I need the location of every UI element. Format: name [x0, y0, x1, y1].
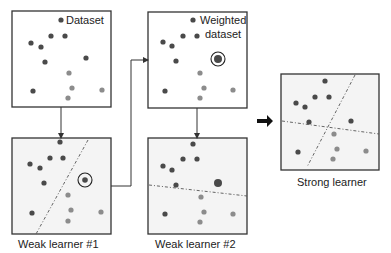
weighted-data-point: [214, 55, 222, 63]
dark-data-point: [322, 78, 327, 83]
dark-data-point: [190, 17, 195, 22]
weighted-data-point: [214, 179, 222, 187]
dark-data-point: [194, 33, 199, 38]
weighted-label-line1: Weighted: [200, 14, 246, 26]
dark-data-point: [160, 39, 165, 44]
weighted-box: [148, 12, 247, 108]
strong-panel: [281, 74, 379, 170]
light-data-point: [230, 211, 235, 216]
dark-data-point: [295, 149, 300, 154]
dark-data-point: [47, 155, 52, 160]
dark-data-point: [162, 211, 167, 216]
dark-data-point: [42, 59, 47, 64]
dark-data-point: [173, 58, 178, 63]
dark-data-point: [41, 180, 46, 185]
dark-data-point: [48, 33, 53, 38]
light-data-point: [65, 218, 70, 223]
dark-data-point: [29, 210, 34, 215]
light-data-point: [197, 95, 202, 100]
dataset-label: Dataset: [66, 14, 104, 26]
light-data-point: [66, 70, 71, 75]
light-data-point: [198, 194, 203, 199]
dark-data-point: [194, 156, 199, 161]
dark-data-point: [180, 156, 185, 161]
light-data-point: [331, 131, 336, 136]
light-data-point: [65, 95, 70, 100]
dark-data-point: [58, 17, 63, 22]
dark-data-point: [348, 118, 353, 123]
dark-data-point: [306, 119, 311, 124]
weak1-panel: [12, 138, 111, 234]
dark-data-point: [293, 100, 298, 105]
light-data-point: [197, 70, 202, 75]
dark-data-point: [60, 155, 65, 160]
dark-data-point: [57, 139, 62, 144]
dark-data-point: [30, 88, 35, 93]
light-data-point: [99, 87, 104, 92]
boosting-diagram: Dataset Weighted dataset Weak learner #1…: [0, 0, 391, 253]
dark-data-point: [312, 94, 317, 99]
dark-data-point: [62, 33, 67, 38]
dark-data-point: [160, 163, 165, 168]
dark-data-point: [28, 40, 33, 45]
light-data-point: [69, 85, 74, 90]
dark-data-point: [302, 104, 307, 109]
weighted-label-line2: dataset: [205, 28, 241, 40]
feedback-arrow: [111, 60, 148, 186]
dark-data-point: [27, 161, 32, 166]
dark-data-point: [169, 167, 174, 172]
light-data-point: [230, 87, 235, 92]
dark-data-point: [83, 55, 88, 60]
dark-data-point: [38, 44, 43, 49]
misclassified-data-point: [82, 177, 88, 183]
weighted-panel: [148, 12, 247, 108]
light-data-point: [197, 219, 202, 224]
light-data-point: [330, 156, 335, 161]
light-data-point: [334, 146, 339, 151]
dark-data-point: [37, 165, 42, 170]
light-data-point: [201, 85, 206, 90]
dark-data-point: [326, 94, 331, 99]
weak1-box: [12, 138, 111, 234]
light-data-point: [65, 192, 70, 197]
light-data-point: [68, 207, 73, 212]
weak2-box: [148, 138, 247, 234]
weak-learner-2-label: Weak learner #2: [155, 238, 236, 250]
dark-data-point: [169, 43, 174, 48]
light-data-point: [201, 209, 206, 214]
dark-data-point: [190, 141, 195, 146]
strong-learner-label: Strong learner: [297, 176, 367, 188]
weak2-panel: [148, 138, 247, 234]
dark-data-point: [180, 33, 185, 38]
dark-data-point: [162, 88, 167, 93]
combine-arrow-icon: [257, 115, 273, 127]
dark-data-point: [173, 182, 178, 187]
weak-learner-1-label: Weak learner #1: [18, 238, 99, 250]
light-data-point: [98, 209, 103, 214]
light-data-point: [363, 148, 368, 153]
